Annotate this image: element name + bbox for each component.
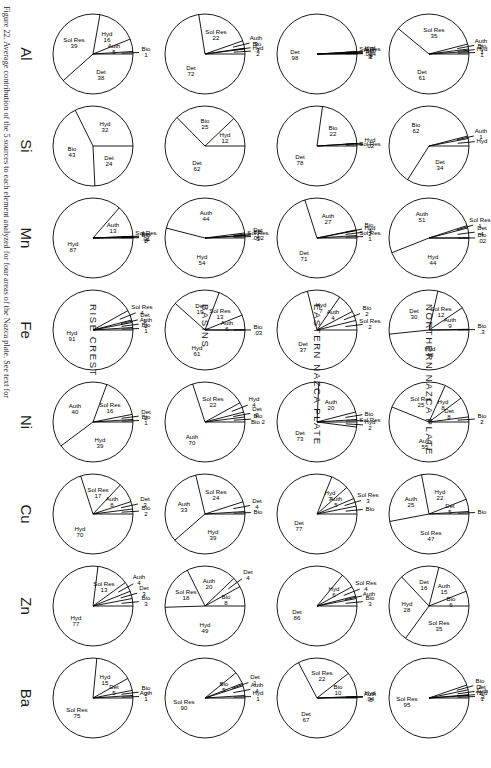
figure-caption: Figure 22. Average contribution of the 5… [2,6,11,762]
slice-label-bio: Bio1 [142,414,151,427]
pie-chart-northern-nazca-plate-ba: Sol Res95Bio2Det2Auth.3Hyd1 [375,652,483,744]
slice-label-bio: Bio.02 [478,232,487,245]
slice-label-hyd: Hyd.04 [365,690,376,703]
pie-chart-eastern-nazca-plate-cu: Det77Hyd7Auth5Sol Res3Bio [263,468,371,560]
pie-chart-eastern-nazca-plate-mn: Det71Auth27Bio.3Hyd2Sol Res1 [263,192,371,284]
slice-label-bio: Bio [365,506,374,512]
pie-chart-northern-nazca-plate-mn: Hyd44Auth51Sol Res1Det4Bio.02 [375,192,483,284]
pie-chart-basins-ni: Auth70Sol Res22Hyd4Det2BioBio 2 [151,376,259,468]
slice-label-det: Det.4 [141,230,150,243]
slice-label-det: Det3 [140,496,149,509]
slice-label-det: Det4 [477,225,486,238]
slice-label-det: Det3 [139,585,148,598]
pie-chart-eastern-nazca-plate-ni: Hyd2Det73Auth20BioSol Res [263,376,371,468]
slice-label-det: Det2 [252,406,261,419]
pie-chart-rise-crest-zn: Hyd77Sol Res13Auth4Det3Bio3 [39,560,147,652]
slice-label-hyd: Hyd2 [252,44,263,57]
slice-label-sol-res: Sol Res1 [469,217,490,230]
slice-label-bio: Bio2 [477,412,486,425]
slice-label-bio: Bio3 [141,595,150,608]
pie-chart-basins-ba: Sol Res90Bio5Det1Auth4Hyd1 [151,652,259,744]
element-label-al: Al [18,24,35,84]
slice-label-hyd: Hyd2 [364,225,375,238]
slice-label-bio: Bio [365,410,374,416]
slice-label-hyd: Hyd4 [249,396,260,409]
slice-label-hyd: Hyd.02 [364,136,375,149]
pie-chart-northern-nazca-plate-ni: Auth55Sol Res25Hyd8Det8Bio2 [375,376,483,468]
slice-label-bio: Bio1 [477,43,486,56]
slice-label-bio: Bio.2 [366,47,375,60]
pie-chart-rise-crest-mn: Hyd87Auth13Sol Res.01Det.4Bio2 [39,192,147,284]
element-label-zn: Zn [18,576,35,636]
pie-chart-northern-nazca-plate-fe: Hyd48Det30Sol Res12Auth9Bio.3 [375,284,483,376]
slice-label-bio: Bio1 [142,322,151,335]
slice-label-auth: Auth4 [251,682,264,695]
slice-label-auth: Auth2 [475,38,488,51]
pie-chart-eastern-nazca-plate-ba: Det67Sol Res22Bio10Hyd.04Auth.5 [263,652,371,744]
slice-label-bio: Bio [254,509,263,515]
pie-chart-basins-fe: Hyd61Det19Sol Res13Auth6Bio.03 [151,284,259,376]
pie-chart-basins-cu: Hyd39Auth33Sol Res24Det4Bio [151,468,259,560]
slice-label-hyd: Hyd1 [477,690,488,703]
slice-label-bio: Bio [478,509,487,515]
slice-label-bio: Bio2 [142,231,151,244]
element-label-si: Si [18,116,35,176]
slice-label-bio: Bio.3 [478,323,487,336]
pie-chart-rise-crest-ba: Sol Res75Hyd15Det5Bio2Auth1 [39,652,147,744]
pie-chart-eastern-nazca-plate-fe: Det37Hyd7Auth4Bio2Sol Res2 [263,284,371,376]
slice-label-auth: Auth.3 [476,688,489,701]
slice-label-det: Det1 [250,674,259,687]
slice-label-det: Det4 [252,498,261,511]
pie-chart-basins-mn: Hyd54Auth44Det1Bio.002Sol Res1 [151,192,259,284]
slice-label-det: Det1 [140,312,149,325]
slice-label-auth: Auth3 [250,35,263,48]
slice-label-bio: Bio.3 [365,221,374,234]
slice-label-bio: Bio2 [141,685,150,698]
pie-chart-northern-nazca-plate-si: Det34Bio62Auth1Hyd [375,100,483,192]
pie-chart-rise-crest-al: Det38Sol Res39Hyd16Auth5Bio1 [39,8,147,100]
slice-label-det: Det2 [141,409,150,422]
slice-label-hyd: Hyd2 [364,419,375,432]
element-label-cu: Cu [18,484,35,544]
pie-chart-northern-nazca-plate-zn: Sol Res35Hyd28Det16Auth15Bio6 [375,560,483,652]
slice-label-bio: Bio2 [141,504,150,517]
slice-label-bio: Bio3 [365,595,374,608]
slice-label-auth: Auth4 [133,574,146,587]
pie-chart-eastern-nazca-plate-zn: Det86Hyd6Sol Res4AuthBio3 [263,560,371,652]
slice-label-hyd: Hyd [476,138,487,144]
pie-chart-grid: NORTHERN NAZCA PLATEEASTERN NAZCA PLATEB… [27,0,489,768]
slice-label-auth: Auth2 [139,317,152,330]
pie-chart-rise-crest-si: Det24Bio43Hyd32 [39,100,147,192]
slice-label-bio: Bio.03 [254,324,263,337]
slice-label-auth: Auth [362,591,375,597]
element-label-ba: Ba [18,668,35,728]
slice-label-det: Det1 [253,227,262,240]
slice-label-bio: Bio2 [362,305,371,318]
element-label-ni: Ni [18,392,35,452]
slice-label-det: Det2 [477,684,486,697]
slice-label-hyd: Hyd1 [253,690,264,703]
pie-chart-northern-nazca-plate-al: Det61Sol Res35Auth2Bio1Hyd1 [375,8,483,100]
pie-chart-eastern-nazca-plate-al: Det98Hyd.004Sol Res.6Auth1Bio.2 [263,8,371,100]
slice-label-hyd: Hyd1 [477,46,488,59]
slice-label-auth: Auth1 [474,128,487,141]
slice-label-bio: Bio1 [142,46,151,59]
pie-chart-rise-crest-ni: Hyd39Auth40Sol Res16Det2Bio1 [39,376,147,468]
pie-chart-basins-zn: Hyd49Sol Res18Auth20Det4Bio8 [151,560,259,652]
pie-chart-northern-nazca-plate-cu: Sol Res47Auth25Hyd22Det5Bio [375,468,483,560]
element-label-mn: Mn [18,208,35,268]
pie-chart-rise-crest-cu: Hyd70Sol Res17Auth8Det3Bio2 [39,468,147,560]
pie-chart-basins-al: Det72Sol Res22Auth3Bio.3Hyd2 [151,8,259,100]
slice-label-bio: Bio.3 [253,40,262,53]
pie-chart-rise-crest-fe: Hyd91Sol Res4Det1Auth2Bio1 [39,284,147,376]
element-label-fe: Fe [18,300,35,360]
pie-chart-basins-si: Det62Bio25Hyd12 [151,100,259,192]
pie-chart-eastern-nazca-plate-si: Det78Bio22Hyd.02Sol Res [263,100,371,192]
slice-label-bio: Bio2 [476,677,485,690]
